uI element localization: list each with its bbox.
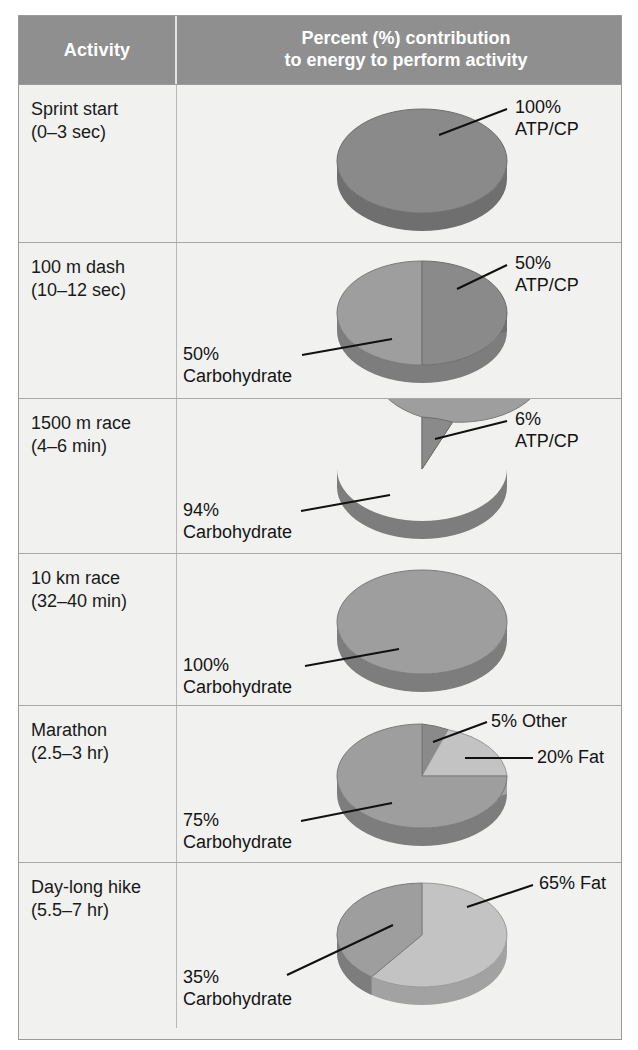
column-header-activity-label: Activity <box>64 40 131 61</box>
label-carbohydrate-name: Carbohydrate <box>183 832 292 854</box>
activity-duration: (5.5–7 hr) <box>31 899 176 922</box>
activity-name: Marathon <box>31 719 176 742</box>
table-row: 1500 m race (4–6 min) 6% ATP/CP <box>19 399 621 554</box>
activity-name: Day-long hike <box>31 876 176 899</box>
column-header-percent-line1: Percent (%) contribution <box>284 28 527 50</box>
activity-name: 10 km race <box>31 567 176 590</box>
pie-slice-carbohydrate <box>337 570 507 674</box>
chart-cell: 100% Carbohydrate <box>177 554 621 705</box>
chart-cell: 65% Fat 35% Carbohydrate <box>177 863 621 1028</box>
label-atp-cp: 100% ATP/CP <box>515 97 579 141</box>
energy-contribution-table: Activity Percent (%) contribution to ene… <box>18 15 622 1040</box>
activity-name: 1500 m race <box>31 412 176 435</box>
activity-cell: 1500 m race (4–6 min) <box>19 399 177 553</box>
activity-duration: (4–6 min) <box>31 435 176 458</box>
label-carbohydrate: 100% Carbohydrate <box>183 655 292 699</box>
label-carbohydrate-value: 35% <box>183 967 292 989</box>
activity-duration: (32–40 min) <box>31 590 176 613</box>
column-header-activity: Activity <box>19 16 177 84</box>
label-atp-cp-name: ATP/CP <box>515 119 579 141</box>
label-carbohydrate-value: 100% <box>183 655 292 677</box>
pie-side-carbohydrate <box>337 469 507 539</box>
activity-cell: Day-long hike (5.5–7 hr) <box>19 863 177 1028</box>
label-atp-cp-value: 100% <box>515 97 579 119</box>
label-carbohydrate-name: Carbohydrate <box>183 677 292 699</box>
activity-cell: 100 m dash (10–12 sec) <box>19 243 177 398</box>
label-fat-value: 65% Fat <box>539 873 606 895</box>
chart-cell: 5% Other 20% Fat 75% Carbohydrate <box>177 706 621 862</box>
label-atp-cp-name: ATP/CP <box>515 431 579 453</box>
pie-body <box>337 399 544 539</box>
chart-cell: 6% ATP/CP 94% Carbohydrate <box>177 399 621 553</box>
table-row: Marathon (2.5–3 hr) <box>19 706 621 863</box>
column-header-percent: Percent (%) contribution to energy to pe… <box>177 16 621 84</box>
chart-cell: 100% ATP/CP <box>177 85 621 242</box>
activity-duration: (0–3 sec) <box>31 121 176 144</box>
pie-slice-atp-cp <box>422 417 453 469</box>
label-carbohydrate: 94% Carbohydrate <box>183 500 292 544</box>
activity-cell: 10 km race (32–40 min) <box>19 554 177 705</box>
label-atp-cp-name: ATP/CP <box>515 275 579 297</box>
label-carbohydrate-value: 50% <box>183 344 292 366</box>
label-carbohydrate-name: Carbohydrate <box>183 989 292 1011</box>
pie-body <box>337 109 507 231</box>
label-carbohydrate-value: 75% <box>183 810 292 832</box>
table-row: 100 m dash (10–12 sec) <box>19 243 621 399</box>
pie-body <box>337 261 507 383</box>
label-carbohydrate-name: Carbohydrate <box>183 366 292 388</box>
label-fat: 20% Fat <box>537 747 604 769</box>
pie-slice-carbohydrate <box>337 724 507 828</box>
label-atp-cp: 6% ATP/CP <box>515 409 579 453</box>
table-row: Sprint start (0–3 sec) 100% ATP/CP <box>19 85 621 243</box>
activity-duration: (10–12 sec) <box>31 279 176 302</box>
activity-name: Sprint start <box>31 98 176 121</box>
column-header-percent-line2: to energy to perform activity <box>284 50 527 72</box>
label-carbohydrate: 75% Carbohydrate <box>183 810 292 854</box>
label-carbohydrate: 50% Carbohydrate <box>183 344 292 388</box>
table-row: Day-long hike (5.5–7 hr) 65% <box>19 863 621 1028</box>
label-carbohydrate-name: Carbohydrate <box>183 522 292 544</box>
pie-slice-atp-cp <box>337 109 507 213</box>
label-other: 5% Other <box>491 711 567 733</box>
label-other-value: 5% Other <box>491 711 567 733</box>
table-header-row: Activity Percent (%) contribution to ene… <box>19 16 621 85</box>
activity-duration: (2.5–3 hr) <box>31 742 176 765</box>
activity-cell: Sprint start (0–3 sec) <box>19 85 177 242</box>
label-atp-cp-value: 6% <box>515 409 579 431</box>
table-row: 10 km race (32–40 min) 100% Carbohydrate <box>19 554 621 706</box>
label-carbohydrate-value: 94% <box>183 500 292 522</box>
label-fat: 65% Fat <box>539 873 606 895</box>
pie-body <box>337 724 507 846</box>
pie-body <box>337 570 507 692</box>
activity-name: 100 m dash <box>31 256 176 279</box>
label-atp-cp: 50% ATP/CP <box>515 253 579 297</box>
chart-cell: 50% ATP/CP 50% Carbohydrate <box>177 243 621 398</box>
activity-cell: Marathon (2.5–3 hr) <box>19 706 177 862</box>
label-carbohydrate: 35% Carbohydrate <box>183 967 292 1011</box>
label-atp-cp-value: 50% <box>515 253 579 275</box>
label-fat-value: 20% Fat <box>537 747 604 769</box>
